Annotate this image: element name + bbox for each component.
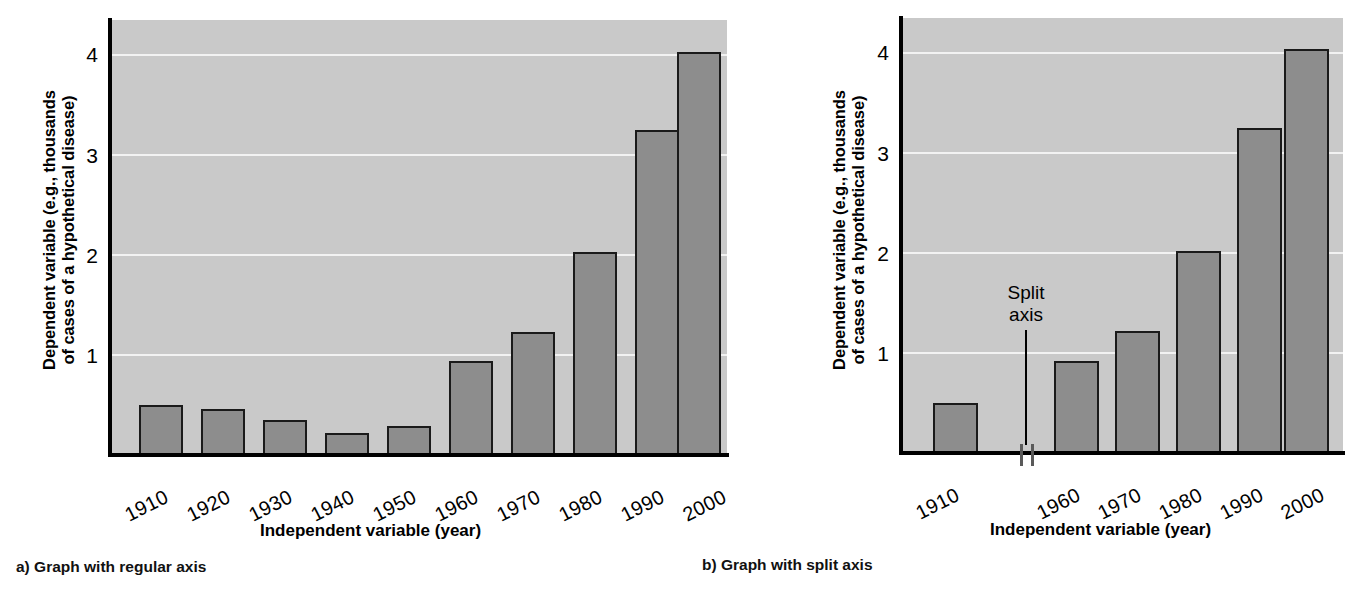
x-tick-label-1910-b: 1910 xyxy=(912,483,963,524)
split-axis-leader-line xyxy=(1025,330,1027,445)
y-tick-label-2-b: 2 xyxy=(863,243,889,264)
bar-1980-a xyxy=(573,252,617,453)
bar-1960-a xyxy=(449,361,493,453)
bar-1910-b xyxy=(933,403,978,451)
split-axis-annotation-line1: Split xyxy=(983,282,1069,304)
bar-1990-a xyxy=(635,130,679,453)
bar-1990-b xyxy=(1237,128,1282,451)
y-tick-label-4-a: 4 xyxy=(72,44,98,65)
split-axis-annotation: Split axis xyxy=(983,282,1069,326)
x-axis-title-a: Independent variable (year) xyxy=(260,521,481,541)
x-tick-label-1970-a: 1970 xyxy=(493,485,544,526)
y-tick-label-1-a: 1 xyxy=(72,345,98,366)
x-tick-label-2000-b: 2000 xyxy=(1277,483,1328,524)
y-tick-label-4-b: 4 xyxy=(863,42,889,63)
y-axis-title-line2-a: of cases of a hypothetical disease) xyxy=(59,20,78,440)
bar-1960-b xyxy=(1054,361,1099,451)
panel-b-caption: b) Graph with split axis xyxy=(702,556,873,574)
y-tick-label-3-a: 3 xyxy=(72,145,98,166)
x-tick-label-1990-a: 1990 xyxy=(617,485,668,526)
axis-break-mark-left xyxy=(1020,444,1023,466)
y-axis-title-line1-a: Dependent variable (e.g., thousands xyxy=(40,20,59,440)
x-tick-label-1960-b: 1960 xyxy=(1033,483,1084,524)
bar-1920-a xyxy=(201,409,245,453)
y-axis-title-b: Dependent variable (e.g., thousands of c… xyxy=(830,20,868,440)
x-axis-line-b xyxy=(899,451,1345,455)
bar-1910-a xyxy=(139,405,183,453)
x-axis-title-b: Independent variable (year) xyxy=(990,520,1211,540)
bar-2000-b xyxy=(1284,49,1329,451)
plot-area-a xyxy=(112,20,727,453)
gridline-4-a xyxy=(112,54,727,56)
bar-1980-b xyxy=(1176,251,1221,451)
figure-container: Dependent variable (e.g., thousands of c… xyxy=(0,0,1357,589)
x-tick-label-1920-a: 1920 xyxy=(183,485,234,526)
bar-1950-a xyxy=(387,426,431,453)
bar-1970-a xyxy=(511,332,555,453)
bar-1930-a xyxy=(263,420,307,453)
bar-1940-a xyxy=(325,433,369,453)
plot-area-b xyxy=(903,18,1343,451)
panel-b-split-axis: Dependent variable (e.g., thousands of c… xyxy=(700,0,1357,589)
x-tick-label-1990-b: 1990 xyxy=(1216,483,1267,524)
bar-1970-b xyxy=(1115,331,1160,451)
x-tick-label-1910-a: 1910 xyxy=(121,485,172,526)
y-tick-label-2-a: 2 xyxy=(72,245,98,266)
panel-a-regular-axis: Dependent variable (e.g., thousands of c… xyxy=(0,0,760,589)
x-axis-line-a xyxy=(108,453,729,457)
gridline-4-b xyxy=(903,52,1343,54)
y-axis-title-line1-b: Dependent variable (e.g., thousands xyxy=(830,20,849,440)
x-tick-label-1980-a: 1980 xyxy=(555,485,606,526)
y-axis-line-a xyxy=(108,18,112,455)
y-axis-title-a: Dependent variable (e.g., thousands of c… xyxy=(40,20,78,440)
x-tick-label-1970-b: 1970 xyxy=(1094,483,1145,524)
split-axis-annotation-line2: axis xyxy=(983,304,1069,326)
y-axis-title-line2-b: of cases of a hypothetical disease) xyxy=(849,20,868,440)
y-tick-label-3-b: 3 xyxy=(863,143,889,164)
axis-break-mark-right xyxy=(1031,444,1034,466)
y-axis-line-b xyxy=(899,16,903,455)
y-tick-label-1-b: 1 xyxy=(863,343,889,364)
x-tick-label-1980-b: 1980 xyxy=(1155,483,1206,524)
panel-a-caption: a) Graph with regular axis xyxy=(16,558,206,576)
